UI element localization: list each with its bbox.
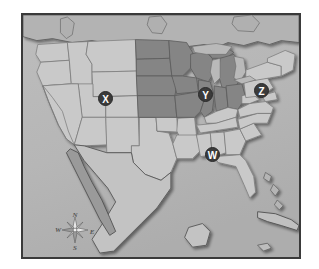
compass-rose: N W E S [51, 205, 99, 255]
map-frame: X Y Z W N W E S [21, 13, 301, 259]
state-indiana [214, 86, 228, 112]
compass-label-west: W [53, 226, 63, 234]
state-south-dakota [136, 58, 171, 76]
state-iowa [172, 76, 199, 94]
state-nebraska [136, 76, 176, 96]
map-screenshot: X Y Z W N W E S [0, 0, 319, 269]
state-montana [86, 40, 136, 72]
state-oklahoma-body [156, 117, 178, 132]
marker-w[interactable]: W [205, 147, 220, 162]
state-north-dakota [135, 40, 170, 60]
compass-label-south: S [70, 244, 80, 252]
state-oregon [37, 60, 72, 86]
state-washington [36, 43, 70, 63]
marker-x[interactable]: X [98, 91, 113, 106]
state-kansas [137, 96, 176, 118]
state-louisiana [173, 135, 201, 159]
marker-z[interactable]: Z [254, 83, 269, 98]
marker-y[interactable]: Y [198, 87, 213, 102]
compass-label-east: E [87, 228, 97, 236]
compass-label-north: N [70, 211, 80, 219]
